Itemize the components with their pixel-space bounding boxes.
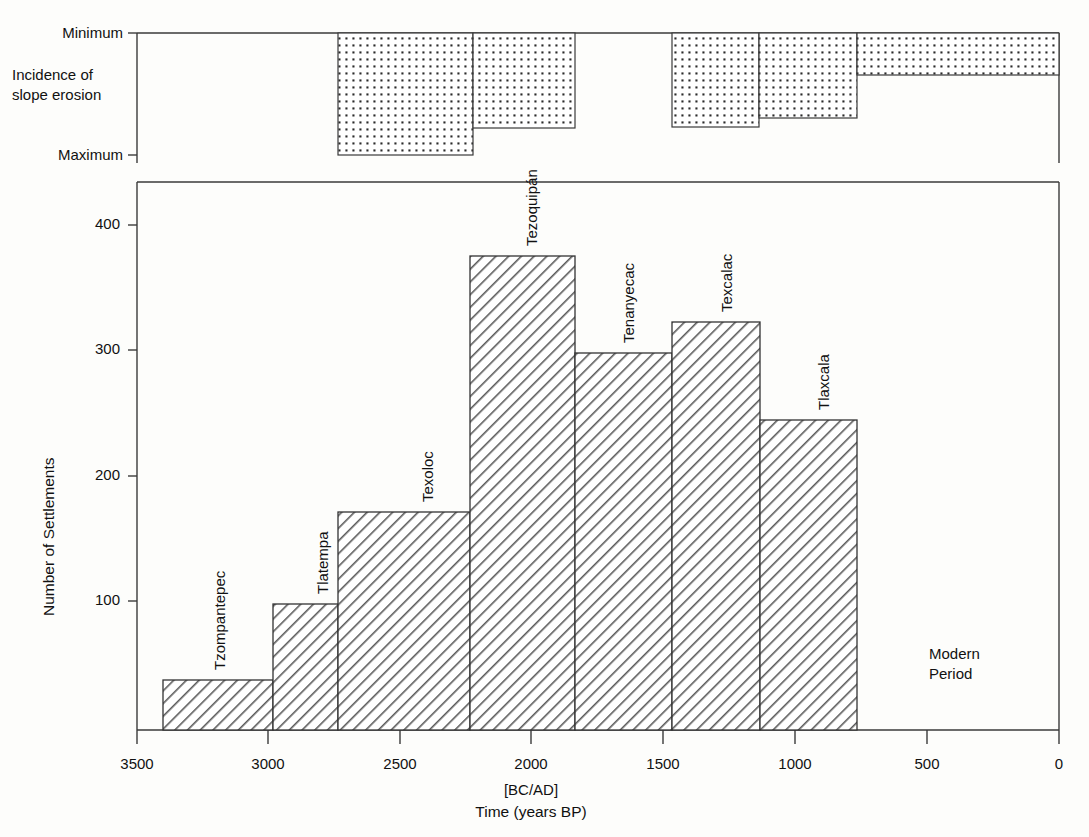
erosion-block-2 — [473, 33, 575, 128]
bar-label-texcalac: Texcalac — [718, 254, 735, 312]
bar-label-texoloc: Texoloc — [419, 451, 436, 502]
annotation-modern-line2: Period — [929, 665, 972, 683]
ytick-label-400: 400 — [62, 215, 120, 233]
bar-label-tlatempa: Tlatempa — [314, 531, 331, 594]
bar-texcalac — [672, 322, 760, 730]
bar-label-tenanyecac: Tenanyecac — [620, 263, 637, 343]
bar-tenanyecac — [575, 353, 672, 730]
xtick-label-2000: 2000 — [501, 755, 561, 773]
bar-tlaxcala — [760, 420, 857, 730]
erosion-tick-label-minimum: Minimum — [10, 24, 123, 42]
ytick-label-200: 200 — [62, 466, 120, 484]
x-axis-title: Time (years BP) — [451, 803, 611, 821]
bar-label-tezoquipan: Tezoquipán — [523, 169, 540, 246]
bar-tezoquipan — [470, 256, 575, 730]
annotation-modern-line1: Modern — [929, 645, 980, 663]
xtick-label-1000: 1000 — [765, 755, 825, 773]
erosion-axis-label-line2: slope erosion — [12, 86, 101, 104]
xtick-label-2500: 2500 — [370, 755, 430, 773]
ytick-label-300: 300 — [62, 340, 120, 358]
xtick-label-1500: 1500 — [633, 755, 693, 773]
bar-texoloc — [338, 512, 470, 730]
erosion-tick-label-maximum: Maximum — [10, 146, 123, 164]
erosion-block-3 — [672, 33, 759, 127]
erosion-block-5 — [857, 33, 1059, 75]
ytick-label-100: 100 — [62, 591, 120, 609]
erosion-block-4 — [759, 33, 857, 118]
settlements-panel — [128, 182, 1059, 744]
chart-canvas — [0, 0, 1089, 837]
bar-label-tzompantepec: Tzompantepec — [211, 571, 228, 670]
xtick-label-3000: 3000 — [238, 755, 298, 773]
erosion-panel — [128, 33, 1059, 163]
figure-panel: Minimum Maximum Incidence of slope erosi… — [0, 0, 1089, 837]
erosion-block-1 — [338, 33, 473, 155]
bar-tzompantepec — [163, 680, 273, 730]
y-axis-title: Number of Settlements — [40, 457, 58, 616]
bar-tlatempa — [273, 604, 338, 730]
erosion-axis-label-line1: Incidence of — [12, 66, 93, 84]
bar-label-tlaxcala: Tlaxcala — [815, 354, 832, 410]
xtick-label-0: 0 — [1029, 755, 1089, 773]
x-axis-era-label: [BC/AD] — [501, 781, 561, 799]
xtick-label-500: 500 — [897, 755, 957, 773]
xtick-label-3500: 3500 — [107, 755, 167, 773]
